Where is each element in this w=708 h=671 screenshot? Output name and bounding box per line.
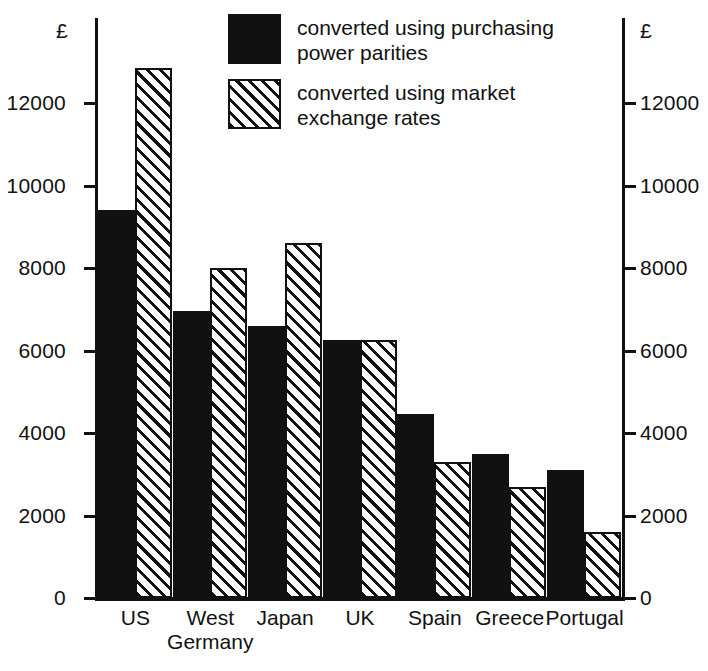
legend-label: converted using purchasing power paritie… xyxy=(297,14,554,65)
bar-japan-series-1 xyxy=(248,326,285,598)
legend-label-line-1: converted using purchasing xyxy=(297,15,554,40)
bar-us-series-2 xyxy=(135,68,172,598)
y-axis-right-tick-label: 8000 xyxy=(640,257,688,278)
bar-west-germany-series-2 xyxy=(210,268,247,598)
legend-item: converted using purchasing power paritie… xyxy=(228,14,554,65)
bar-spain-series-2 xyxy=(434,462,471,598)
category-label-line: Portugal xyxy=(539,606,630,630)
legend-label-line-1: converted using market xyxy=(297,80,515,105)
y-axis-right-tick xyxy=(625,267,636,270)
bar-greece-series-1 xyxy=(472,454,509,598)
bar-portugal-series-2 xyxy=(584,532,621,598)
y-axis-left-tick-label: 4000 xyxy=(18,422,66,443)
bar-uk-series-2 xyxy=(360,340,397,598)
bar-us-series-1 xyxy=(98,210,135,598)
y-axis-right-tick xyxy=(625,350,636,353)
right-axis-currency-label: £ xyxy=(640,20,652,41)
y-axis-right-tick-label: 6000 xyxy=(640,340,688,361)
legend-label-line-2: exchange rates xyxy=(297,105,515,130)
y-axis-left-tick-label: 8000 xyxy=(18,257,66,278)
bar-japan-series-2 xyxy=(285,243,322,598)
bar-uk-series-1 xyxy=(323,340,360,598)
y-axis-right-tick-label: 12000 xyxy=(640,92,699,113)
y-axis-left-tick-label: 6000 xyxy=(18,340,66,361)
y-axis-left-tick-label: 0 xyxy=(54,587,66,608)
y-axis-left-tick xyxy=(84,350,95,353)
chart-legend: converted using purchasing power paritie… xyxy=(228,14,554,144)
y-axis-left-tick xyxy=(84,515,95,518)
legend-swatch-diagonal-hatch-icon xyxy=(228,79,281,129)
category-label-line: Germany xyxy=(165,630,256,654)
y-axis-right-tick-label: 4000 xyxy=(640,422,688,443)
legend-swatch-solid-black-icon xyxy=(228,14,281,64)
bar-portugal-series-1 xyxy=(547,470,584,598)
legend-label-line-2: power parities xyxy=(297,40,554,65)
y-axis-right-tick xyxy=(625,432,636,435)
y-axis-left-tick xyxy=(84,102,95,105)
y-axis-right-tick xyxy=(625,597,636,600)
y-axis-left-tick-label: 12000 xyxy=(7,92,66,113)
legend-item: converted using market exchange rates xyxy=(228,79,554,130)
bar-chart: £ £ 002000200040004000600060008000800010… xyxy=(0,0,708,671)
bar-spain-series-1 xyxy=(397,414,434,598)
y-axis-left-tick-label: 10000 xyxy=(7,175,66,196)
x-axis-category-label-portugal: Portugal xyxy=(539,606,630,630)
bar-greece-series-2 xyxy=(509,487,546,598)
left-axis-currency-label: £ xyxy=(56,20,68,41)
y-axis-left-tick-label: 2000 xyxy=(18,505,66,526)
y-axis-left-tick xyxy=(84,185,95,188)
y-axis-right-tick-label: 10000 xyxy=(640,175,699,196)
y-axis-right-line xyxy=(622,18,625,600)
y-axis-left-tick xyxy=(84,597,95,600)
y-axis-right-tick xyxy=(625,102,636,105)
y-axis-left-tick xyxy=(84,432,95,435)
y-axis-right-tick xyxy=(625,515,636,518)
bar-west-germany-series-1 xyxy=(173,311,210,598)
y-axis-right-tick xyxy=(625,185,636,188)
legend-label: converted using market exchange rates xyxy=(297,79,515,130)
y-axis-right-tick-label: 0 xyxy=(640,587,652,608)
y-axis-left-tick xyxy=(84,267,95,270)
y-axis-right-tick-label: 2000 xyxy=(640,505,688,526)
